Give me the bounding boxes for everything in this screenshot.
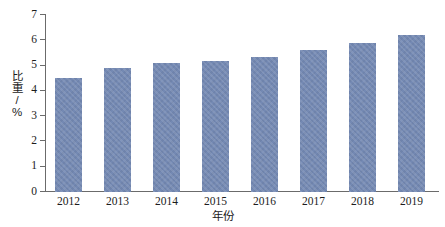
y-axis-title: 比重/% <box>6 70 22 118</box>
y-axis-tick-label: 2 <box>31 135 37 147</box>
bar-2013 <box>104 68 131 192</box>
plot-area <box>46 14 438 192</box>
bar-chart: 比重/% 01234567 20122013201420152016201720… <box>0 0 445 227</box>
bar-2016 <box>251 57 278 192</box>
y-axis-tick-label: 6 <box>31 34 37 46</box>
bar-2017 <box>300 50 327 192</box>
x-axis-title: 年份 <box>0 207 445 223</box>
y-axis-tick-label: 7 <box>31 9 37 21</box>
y-axis-tick-label: 0 <box>31 186 37 198</box>
y-axis-tick-label: 5 <box>31 59 37 71</box>
y-axis-tick-label: 4 <box>31 85 37 97</box>
bar-2014 <box>153 63 180 192</box>
y-axis-tick-label: 3 <box>31 110 37 122</box>
bar-2018 <box>349 43 376 192</box>
bar-2019 <box>398 35 425 192</box>
bar-2012 <box>55 78 82 192</box>
bar-2015 <box>202 61 229 192</box>
y-axis-tick-label: 1 <box>31 160 37 172</box>
